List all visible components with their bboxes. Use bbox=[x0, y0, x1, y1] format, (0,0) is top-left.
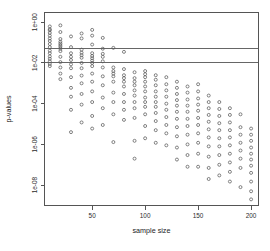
data-point bbox=[112, 101, 115, 104]
data-point bbox=[250, 190, 253, 193]
data-point bbox=[175, 126, 178, 129]
data-point bbox=[197, 132, 200, 135]
data-point bbox=[250, 158, 253, 161]
data-point bbox=[218, 101, 221, 104]
data-point bbox=[59, 66, 62, 69]
x-tick-label: 100 bbox=[140, 212, 151, 219]
data-point bbox=[228, 170, 231, 173]
data-point bbox=[165, 123, 168, 126]
data-point bbox=[207, 94, 210, 97]
data-point bbox=[80, 32, 83, 35]
data-point bbox=[165, 95, 168, 98]
data-point bbox=[154, 120, 157, 123]
data-point bbox=[228, 113, 231, 116]
y-axis-title: p-values bbox=[4, 95, 13, 123]
data-point bbox=[197, 141, 200, 144]
data-point bbox=[133, 80, 136, 83]
data-point bbox=[250, 198, 253, 201]
data-point bbox=[207, 155, 210, 158]
data-point bbox=[186, 125, 189, 128]
data-point bbox=[122, 68, 125, 71]
data-point bbox=[48, 43, 51, 46]
data-point bbox=[144, 96, 147, 99]
y-tick-label: 1e-08 bbox=[31, 176, 38, 193]
data-point bbox=[154, 141, 157, 144]
data-point bbox=[250, 133, 253, 136]
data-point bbox=[207, 107, 210, 110]
data-point bbox=[133, 101, 136, 104]
data-point bbox=[69, 131, 72, 134]
data-point bbox=[154, 90, 157, 93]
data-point bbox=[197, 116, 200, 119]
data-point bbox=[218, 163, 221, 166]
data-point bbox=[250, 152, 253, 155]
data-point bbox=[250, 171, 253, 174]
data-point bbox=[239, 149, 242, 152]
data-point bbox=[101, 52, 104, 55]
data-point bbox=[144, 101, 147, 104]
data-point bbox=[91, 43, 94, 46]
data-point bbox=[69, 67, 72, 70]
data-point bbox=[80, 121, 83, 124]
data-point bbox=[207, 145, 210, 148]
data-point bbox=[218, 174, 221, 177]
data-point bbox=[133, 89, 136, 92]
data-point bbox=[165, 132, 168, 135]
reference-lines bbox=[45, 49, 259, 63]
data-point bbox=[165, 76, 168, 79]
data-point bbox=[186, 104, 189, 107]
data-point bbox=[175, 99, 178, 102]
data-point bbox=[250, 180, 253, 183]
data-point bbox=[59, 55, 62, 58]
data-point bbox=[59, 31, 62, 34]
chart-canvas: 501001502001e+001e-021e-041e-061e-08samp… bbox=[0, 0, 270, 251]
data-point bbox=[239, 166, 242, 169]
data-point bbox=[122, 101, 125, 104]
data-point bbox=[101, 123, 104, 126]
axes bbox=[41, 13, 259, 210]
y-tick-label: 1e-02 bbox=[31, 54, 38, 71]
data-point bbox=[144, 76, 147, 79]
data-point bbox=[228, 121, 231, 124]
data-point bbox=[122, 85, 125, 88]
data-point bbox=[133, 139, 136, 142]
data-point bbox=[186, 91, 189, 94]
data-point bbox=[175, 146, 178, 149]
data-point bbox=[48, 46, 51, 49]
data-point bbox=[207, 120, 210, 123]
data-point bbox=[197, 97, 200, 100]
data-point bbox=[91, 80, 94, 83]
data-point bbox=[197, 103, 200, 106]
data-point bbox=[133, 157, 136, 160]
data-point bbox=[207, 128, 210, 131]
data-point bbox=[239, 126, 242, 129]
data-point bbox=[175, 110, 178, 113]
data-point bbox=[207, 166, 210, 169]
axis-labels: 501001502001e+001e-021e-041e-061e-08samp… bbox=[4, 13, 257, 235]
data-point bbox=[69, 58, 72, 61]
x-axis-title: sample size bbox=[133, 226, 171, 235]
data-point bbox=[133, 77, 136, 80]
data-point bbox=[154, 74, 157, 77]
data-point bbox=[122, 92, 125, 95]
data-point bbox=[175, 158, 178, 161]
data-point bbox=[207, 101, 210, 104]
y-tick-label: 1e-04 bbox=[31, 95, 38, 112]
data-point bbox=[112, 141, 115, 144]
data-point bbox=[112, 66, 115, 69]
data-point bbox=[175, 104, 178, 107]
data-point bbox=[154, 84, 157, 87]
data-point bbox=[250, 139, 253, 142]
data-point bbox=[218, 122, 221, 125]
data-point bbox=[101, 84, 104, 87]
data-point bbox=[186, 165, 189, 168]
data-point bbox=[207, 178, 210, 181]
data-point bbox=[218, 129, 221, 132]
data-point bbox=[186, 110, 189, 113]
data-point bbox=[218, 145, 221, 148]
data-point bbox=[144, 105, 147, 108]
data-point bbox=[144, 73, 147, 76]
data-point bbox=[133, 107, 136, 110]
data-point bbox=[91, 34, 94, 37]
data-point bbox=[186, 117, 189, 120]
